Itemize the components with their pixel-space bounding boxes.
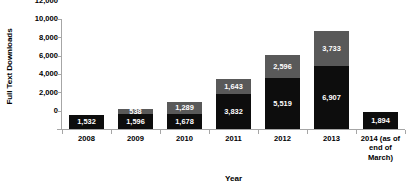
bar-segment-upper[interactable]: 1,643 [216,79,251,94]
bar-segment-lower[interactable]: 1,596 [118,114,153,129]
bar-segment-upper[interactable]: 3,733 [314,31,349,65]
x-axis-title: Year [62,174,405,183]
bar-value-label: 1,678 [175,118,194,125]
x-axis-tick-mark [307,130,308,134]
bar-stack: 2,5965,519 [265,55,300,129]
y-axis-tick-mark [57,92,61,93]
bar-value-label: 1,596 [126,118,145,125]
x-axis-tick-mark [356,130,357,134]
x-axis-tick-labels: 2008200920102011201220132014 (as ofend o… [62,134,405,172]
bar-group[interactable]: 5381,596 [118,19,153,129]
bar-value-label: 2,596 [273,63,292,70]
bar-value-label: 1,289 [175,104,194,111]
y-axis-tick-label: 6,000 [16,51,58,60]
bar-segment-upper[interactable]: 1,289 [167,102,202,114]
x-axis-tick-mark [160,130,161,134]
y-axis-tick-mark [57,111,61,112]
bar-stack: 1,532 [69,115,104,129]
x-axis-tick-label: 2008 [62,134,111,143]
bar-value-label: 1,894 [371,117,390,124]
x-axis-tick-label: 2011 [209,134,258,143]
bar-group[interactable]: 1,532 [69,19,104,129]
x-axis-tick-label: 2013 [307,134,356,143]
bar-segment-lower[interactable]: 5,519 [265,78,300,129]
bar-segment-lower[interactable]: 3,832 [216,94,251,129]
x-axis-tick-mark [405,130,406,134]
bar-segment-upper[interactable]: 2,596 [265,55,300,79]
bar-group[interactable]: 1,2891,678 [167,19,202,129]
x-axis-line [61,129,405,130]
y-axis-tick-mark [57,74,61,75]
y-axis-tick-label: 4,000 [16,69,58,78]
x-axis-tick-label: 2012 [258,134,307,143]
bar-value-label: 1,643 [224,83,243,90]
full-text-downloads-bar-chart: Full Text Downloads 02,0004,0006,0008,00… [0,0,408,193]
y-axis-tick-mark [57,37,61,38]
bar-stack: 1,2891,678 [167,102,202,129]
x-axis-tick-label: 2010 [160,134,209,143]
bar-stack: 3,7336,907 [314,31,349,129]
y-axis-tick-label: 10,000 [16,14,58,23]
bar-stack: 1,894 [363,112,398,129]
y-axis-tick-mark [57,129,61,130]
y-axis-title-text: Full Text Downloads [5,28,14,104]
x-axis-tick-label: 2014 (as ofend ofMarch) [356,134,405,162]
bar-value-label: 1,532 [77,118,96,125]
bar-segment-lower[interactable]: 1,532 [69,115,104,129]
x-axis-tick-mark [111,130,112,134]
bar-stack: 1,6433,832 [216,79,251,129]
bar-value-label: 3,733 [322,45,341,52]
y-axis-tick-label: 0 [16,106,58,115]
bar-group[interactable]: 1,894 [363,19,398,129]
x-axis-tick-label: 2009 [111,134,160,143]
x-axis-tick-mark [258,130,259,134]
x-axis-tick-mark [62,130,63,134]
bar-value-label: 3,832 [224,108,243,115]
y-axis-tick-labels: 02,0004,0006,0008,00010,00012,000 [16,0,58,132]
x-axis-tick-mark [209,130,210,134]
y-axis-tick-label: 12,000 [16,0,58,5]
y-axis-tick-label: 8,000 [16,32,58,41]
bar-value-label: 6,907 [322,94,341,101]
bar-group[interactable]: 2,5965,519 [265,19,300,129]
y-axis-tick-mark [57,56,61,57]
y-axis-tick-mark [57,19,61,20]
bar-value-label: 5,519 [273,100,292,107]
bar-segment-lower[interactable]: 1,678 [167,114,202,129]
plot-area: 1,5325381,5961,2891,6781,6433,8322,5965,… [62,19,405,129]
bar-group[interactable]: 1,6433,832 [216,19,251,129]
bar-segment-lower[interactable]: 6,907 [314,66,349,129]
bar-stack: 5381,596 [118,109,153,129]
bar-segment-lower[interactable]: 1,894 [363,112,398,129]
bar-group[interactable]: 3,7336,907 [314,19,349,129]
y-axis-tick-label: 2,000 [16,87,58,96]
